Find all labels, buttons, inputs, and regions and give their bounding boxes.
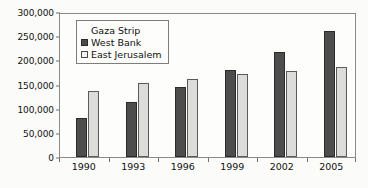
x-axis-tick-label: 1999	[220, 161, 244, 172]
y-axis: 050,000100,000150,000200,000250,000300,0…	[0, 13, 54, 158]
legend-label: East Jerusalem	[91, 49, 162, 60]
bar-westbank-2005	[324, 31, 335, 157]
bar-gazastrip-1993	[114, 155, 125, 157]
y-axis-tick-label: 300,000	[17, 8, 54, 18]
bar-westbank-1993	[126, 102, 137, 157]
legend-item-eastjerusalem: East Jerusalem	[81, 48, 162, 60]
x-axis: 199019931996199920022005	[59, 161, 356, 181]
bar-westbank-1990	[76, 118, 87, 157]
legend-item-westbank: West Bank	[81, 36, 162, 48]
screenshot-root: 050,000100,000150,000200,000250,000300,0…	[0, 0, 368, 188]
bar-chart-figure: 050,000100,000150,000200,000250,000300,0…	[0, 0, 368, 188]
x-axis-tick-label: 1990	[72, 161, 96, 172]
x-axis-tick-label: 1993	[121, 161, 145, 172]
y-axis-tick-label: 150,000	[17, 81, 54, 91]
bar-westbank-2002	[274, 52, 285, 157]
bar-gazastrip-1996	[163, 154, 174, 157]
y-axis-tick-label: 200,000	[17, 56, 54, 66]
bar-eastjerusalem-2005	[336, 67, 347, 157]
y-axis-tick-label: 0	[48, 153, 54, 163]
legend-swatch-gazastrip	[81, 27, 88, 34]
bar-group	[308, 14, 358, 157]
bar-group	[258, 14, 308, 157]
bar-eastjerusalem-1996	[187, 79, 198, 157]
x-axis-tick-label: 1996	[171, 161, 195, 172]
bar-gazastrip-1990	[64, 156, 75, 157]
bar-westbank-1996	[175, 87, 186, 157]
bar-westbank-1999	[225, 70, 236, 157]
bar-eastjerusalem-1993	[138, 83, 149, 157]
bar-gazastrip-1999	[213, 154, 224, 157]
legend-label: West Bank	[91, 37, 141, 48]
legend-swatch-eastjerusalem	[81, 51, 88, 58]
x-axis-tick-label: 2005	[319, 161, 343, 172]
bar-eastjerusalem-2002	[286, 71, 297, 157]
legend-swatch-westbank	[81, 39, 88, 46]
legend-label: Gaza Strip	[91, 25, 140, 36]
x-axis-tick-label: 2002	[270, 161, 294, 172]
legend-item-gazastrip: Gaza Strip	[81, 24, 162, 36]
chart-legend: Gaza StripWest BankEast Jerusalem	[76, 20, 169, 64]
bar-group	[209, 14, 259, 157]
y-axis-tick-label: 100,000	[17, 105, 54, 115]
bar-eastjerusalem-1999	[237, 74, 248, 157]
bar-gazastrip-2002	[262, 153, 273, 157]
y-axis-tick-label: 50,000	[23, 129, 54, 139]
y-axis-tick-label: 250,000	[17, 32, 54, 42]
bar-eastjerusalem-1990	[88, 91, 99, 157]
